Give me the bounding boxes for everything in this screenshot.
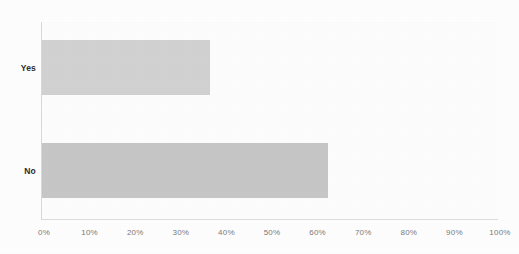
x-tick-label: 90% — [434, 228, 474, 237]
x-tick-label: 0% — [24, 228, 64, 237]
x-tick-label: 30% — [161, 228, 201, 237]
bar-chart-figure: Yes No 0%10%20%30%40%50%60%70%80%90%100% — [0, 0, 519, 254]
bar-yes — [41, 40, 210, 95]
x-tick-label: 70% — [343, 228, 383, 237]
category-label-no: No — [0, 166, 36, 176]
x-tick-label: 80% — [389, 228, 429, 237]
category-label-yes: Yes — [0, 63, 36, 73]
x-tick-label: 40% — [206, 228, 246, 237]
x-tick-label: 50% — [252, 228, 292, 237]
plot-area — [41, 22, 497, 219]
x-tick-label: 20% — [115, 228, 155, 237]
x-tick-label: 60% — [298, 228, 338, 237]
x-tick-label: 10% — [70, 228, 110, 237]
y-axis-line — [41, 22, 42, 220]
x-axis-line — [41, 219, 498, 220]
x-tick-label: 100% — [480, 228, 519, 237]
bar-no — [41, 143, 328, 198]
